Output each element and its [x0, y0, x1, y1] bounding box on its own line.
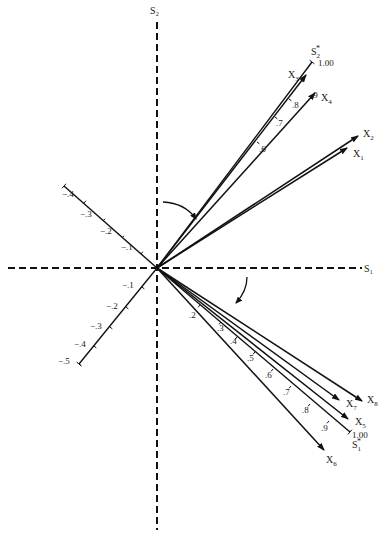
tick-mark — [84, 201, 86, 203]
tick-label: .9 — [311, 90, 318, 100]
vector-label-x5: X5 — [355, 416, 366, 430]
tick-mark — [62, 186, 64, 188]
vector-x5: X5 — [157, 268, 366, 430]
arrow-icon — [157, 75, 306, 268]
tick-mark — [110, 327, 112, 329]
vector-x8: X8 — [157, 268, 378, 408]
tick-label: .7 — [276, 118, 283, 128]
tick-label: .6 — [265, 370, 272, 380]
upper-rotation-arrow-icon — [163, 202, 196, 219]
vector-x7: X7 — [157, 268, 357, 412]
tick-mark — [141, 252, 143, 254]
tick-label: .9 — [321, 423, 328, 433]
tick-mark — [79, 364, 81, 366]
arrow-icon — [157, 268, 324, 450]
tick-mark — [64, 184, 66, 186]
vector-label-x6: X6 — [326, 454, 337, 468]
s2-star-label: S2* — [311, 44, 321, 60]
axis-line — [157, 268, 350, 432]
factor-rotation-diagram: S₁S₂ −.1−.2−.3−.4−.1−.2−.3−.4−.5 .6.7.8.… — [0, 0, 389, 540]
upper-left-axis: −.1−.2−.3−.4 — [62, 184, 157, 268]
vector-label-x7: X7 — [346, 398, 357, 412]
tick-label: .5 — [247, 353, 254, 363]
tick-label: −.2 — [100, 226, 112, 236]
tick-label: −.1 — [121, 242, 133, 252]
vector-label-x3: X3 — [288, 69, 299, 83]
tick-mark — [198, 305, 200, 307]
tick-mark — [142, 287, 144, 289]
arrow-icon — [157, 268, 362, 401]
vector-label-x2: X2 — [363, 128, 374, 142]
vector-x1: X1 — [157, 148, 364, 268]
vector-label-x1: X1 — [353, 148, 364, 162]
tick-mark — [126, 307, 128, 309]
s2-axis-label: S₂ — [150, 5, 159, 16]
tick-mark — [94, 346, 96, 348]
tick-label: −.1 — [122, 280, 134, 290]
tick-label: −.4 — [74, 339, 86, 349]
s1-star-label: S1* — [352, 437, 362, 453]
tick-label: .7 — [283, 387, 290, 397]
tick-label: .3 — [217, 323, 224, 333]
tick-label: −.4 — [62, 189, 74, 199]
tick-label: .8 — [292, 100, 299, 110]
tick-label: −.3 — [80, 209, 92, 219]
tick-label: −.5 — [58, 356, 70, 366]
s1-star-axis: .2.3.4.5.6.7.8.91.00S1* — [157, 268, 368, 453]
arrow-icon — [157, 268, 339, 400]
vector-x4: X4 — [157, 92, 332, 268]
tick-label: .4 — [230, 336, 237, 346]
tick-mark — [310, 60, 312, 62]
vector-label-x4: X4 — [321, 92, 332, 106]
lower-rotation-arrow-icon — [236, 277, 247, 303]
tick-label: −.3 — [90, 321, 102, 331]
tick-label: .2 — [189, 310, 196, 320]
oblique-axes: −.1−.2−.3−.4−.1−.2−.3−.4−.5 — [58, 184, 157, 366]
tick-label: .8 — [302, 405, 309, 415]
tick-mark — [312, 62, 314, 64]
tick-label: −.2 — [106, 301, 118, 311]
tick-mark — [348, 432, 350, 434]
lower-left-axis: −.1−.2−.3−.4−.5 — [58, 268, 157, 366]
arrow-icon — [157, 268, 348, 419]
tick-mark — [77, 362, 79, 364]
s1-axis-label: S₁ — [364, 263, 373, 274]
s2-star-end-value: 1.00 — [318, 58, 334, 68]
reference-axes: S₁S₂ — [8, 5, 373, 530]
axis-line — [79, 268, 157, 364]
vector-label-x8: X8 — [367, 394, 378, 408]
